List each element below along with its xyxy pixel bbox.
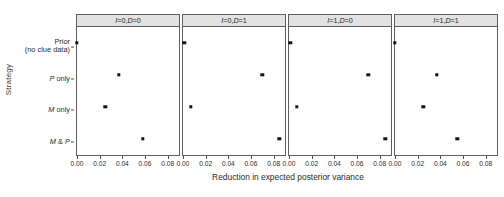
x-axis: 0.000.020.040.060.08: [394, 156, 498, 170]
x-axis-tick-label: 0.02: [93, 160, 106, 167]
facet-strip-label: I=1, D=0: [288, 14, 392, 27]
x-axis-tick-mark: [145, 156, 146, 159]
x-axis-tick-label: 0.00: [177, 160, 190, 167]
x-axis-tick-label: 0.02: [305, 160, 318, 167]
data-point: [278, 137, 281, 140]
facet-scatter-chart: Strategy Prior(no clue data)P onlyM only…: [0, 0, 504, 197]
x-axis: 0.000.020.040.060.08: [76, 156, 180, 170]
data-point: [141, 137, 144, 140]
x-axis-tick-mark: [206, 156, 207, 159]
data-point: [384, 137, 387, 140]
y-axis-title-text: Strategy: [5, 63, 14, 94]
data-point: [182, 41, 185, 44]
y-axis-tick-label: M only: [48, 106, 70, 115]
facet-panel: I=0, D=10.000.020.040.060.08: [182, 14, 286, 156]
facet-variable-value: =1: [329, 16, 337, 25]
data-point: [393, 41, 396, 44]
x-axis-tick-mark: [357, 156, 358, 159]
facet-variable-value: =0: [223, 16, 231, 25]
x-axis-tick-mark: [228, 156, 229, 159]
y-axis-tick-label: P only: [49, 74, 70, 83]
x-axis: 0.000.020.040.060.08: [288, 156, 392, 170]
x-axis-tick-label: 0.02: [199, 160, 212, 167]
y-axis-tick-mark: [71, 46, 74, 47]
x-axis: 0.000.020.040.060.08: [182, 156, 286, 170]
x-axis-tick-mark: [122, 156, 123, 159]
data-point: [104, 105, 107, 108]
facet-variable-value: =1: [435, 16, 443, 25]
x-axis-tick-mark: [77, 156, 78, 159]
facet-variable-value: =0: [133, 16, 141, 25]
data-point: [295, 105, 298, 108]
x-axis-tick-mark: [380, 156, 381, 159]
y-axis-tick-label-line: (no clue data): [25, 47, 70, 56]
x-axis-tick-label: 0.00: [389, 160, 402, 167]
x-axis-tick-mark: [395, 156, 396, 159]
data-point: [189, 105, 192, 108]
plot-area: [76, 27, 180, 156]
facet-panel-row: I=0, D=00.000.020.040.060.08I=0, D=10.00…: [76, 14, 500, 156]
facet-variable-value: =1: [451, 16, 459, 25]
x-axis-tick-mark: [274, 156, 275, 159]
y-axis-tick-mark: [71, 78, 74, 79]
x-axis-tick-mark: [334, 156, 335, 159]
y-axis-tick-mark: [71, 110, 74, 111]
y-axis-tick-mark: [71, 142, 74, 143]
data-point: [422, 105, 425, 108]
x-axis-tick-label: 0.04: [328, 160, 341, 167]
x-axis-tick-mark: [312, 156, 313, 159]
x-axis-tick-mark: [183, 156, 184, 159]
y-axis-tick-label: Prior(no clue data): [25, 38, 70, 55]
facet-panel: I=1, D=10.000.020.040.060.08: [394, 14, 498, 156]
facet-variable-value: =0: [117, 16, 125, 25]
x-axis-tick-label: 0.08: [373, 160, 386, 167]
x-axis-tick-mark: [100, 156, 101, 159]
facet-variable-value: =0: [345, 16, 353, 25]
x-axis-tick-mark: [486, 156, 487, 159]
x-axis-tick-label: 0.06: [245, 160, 258, 167]
y-axis-tick-label-line: M & P: [50, 138, 70, 147]
x-axis-tick-label: 0.08: [161, 160, 174, 167]
x-axis-tick-label: 0.06: [139, 160, 152, 167]
x-axis-tick-label: 0.04: [222, 160, 235, 167]
data-point: [435, 73, 438, 76]
x-axis-tick-label: 0.04: [116, 160, 129, 167]
facet-strip-label: I=0, D=0: [76, 14, 180, 27]
y-axis-tick-label: M & P: [50, 138, 70, 147]
x-axis-title: Reduction in expected posterior variance: [76, 172, 500, 182]
plot-area: [288, 27, 392, 156]
x-axis-tick-mark: [418, 156, 419, 159]
data-point: [261, 73, 264, 76]
data-point: [117, 73, 120, 76]
facet-variable-value: =1: [239, 16, 247, 25]
x-axis-tick-label: 0.02: [411, 160, 424, 167]
y-axis-tick-labels: Prior(no clue data)P onlyM onlyM & P: [14, 30, 74, 156]
facet-strip-label: I=0, D=1: [182, 14, 286, 27]
x-axis-tick-label: 0.04: [434, 160, 447, 167]
x-axis-tick-label: 0.00: [71, 160, 84, 167]
x-axis-tick-mark: [463, 156, 464, 159]
x-axis-tick-mark: [440, 156, 441, 159]
x-axis-tick-label: 0.06: [457, 160, 470, 167]
data-point: [288, 41, 291, 44]
x-axis-tick-label: 0.08: [479, 160, 492, 167]
y-axis-tick-label-line: M only: [48, 106, 70, 115]
x-axis-tick-mark: [289, 156, 290, 159]
data-point: [367, 73, 370, 76]
facet-panel: I=0, D=00.000.020.040.060.08: [76, 14, 180, 156]
y-axis-tick-label-line: P only: [49, 74, 70, 83]
x-axis-tick-label: 0.00: [283, 160, 296, 167]
facet-strip-label: I=1, D=1: [394, 14, 498, 27]
x-axis-tick-mark: [251, 156, 252, 159]
plot-area: [394, 27, 498, 156]
facet-panel: I=1, D=00.000.020.040.060.08: [288, 14, 392, 156]
plot-area: [182, 27, 286, 156]
data-point: [456, 137, 459, 140]
x-axis-tick-label: 0.06: [351, 160, 364, 167]
x-axis-tick-mark: [168, 156, 169, 159]
data-point: [75, 41, 78, 44]
x-axis-tick-label: 0.08: [267, 160, 280, 167]
